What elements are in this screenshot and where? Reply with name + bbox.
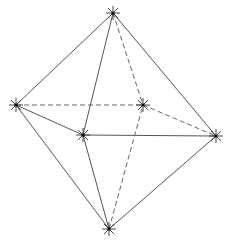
vertex-front-asterisk-icon <box>76 128 90 142</box>
edge-back-right-dashed <box>143 105 216 136</box>
edge-left-front-solid <box>16 105 83 135</box>
vertex-left-asterisk-icon <box>9 98 23 112</box>
vertex-back-asterisk-icon <box>136 98 150 112</box>
edge-top-front-solid <box>83 13 113 135</box>
edge-top-back-dashed <box>113 13 143 105</box>
vertex-top-asterisk-icon <box>106 6 120 20</box>
edge-bottom-left-solid <box>16 105 109 229</box>
edge-top-left-solid <box>16 13 113 105</box>
vertex-right-asterisk-icon <box>209 129 223 143</box>
edge-top-right-solid <box>113 13 216 136</box>
edge-bottom-back-dashed <box>109 105 143 229</box>
octahedron-diagram <box>0 0 228 241</box>
vertices-layer <box>9 6 223 236</box>
edge-front-right-solid <box>83 135 216 136</box>
vertex-bottom-asterisk-icon <box>102 222 116 236</box>
edge-bottom-right-solid <box>109 136 216 229</box>
octahedron-svg <box>0 0 228 241</box>
edge-bottom-front-solid <box>83 135 109 229</box>
edges-layer <box>16 13 216 229</box>
